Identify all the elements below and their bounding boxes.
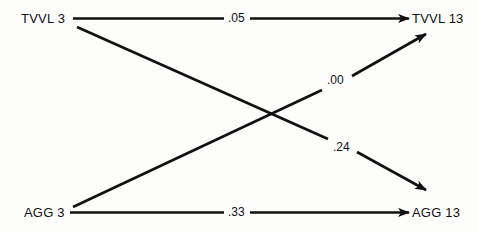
- path-diagram-canvas: TVVL 3 TVVL 13 AGG 3 AGG 13 .05 .00 .24 …: [0, 0, 477, 233]
- node-label-agg13: AGG 13: [412, 206, 460, 219]
- coefficient-label-tvvl3-tvvl13: .05: [226, 12, 247, 24]
- node-label-agg3: AGG 3: [24, 206, 65, 219]
- edge-agg3-to-tvvl13: [73, 34, 426, 207]
- coefficient-label-tvvl3-agg13: .24: [331, 141, 352, 153]
- node-label-tvvl3: TVVL 3: [21, 12, 65, 25]
- coefficient-label-agg3-tvvl13: .00: [325, 74, 346, 86]
- path-diagram-edges: [0, 0, 477, 233]
- node-label-tvvl13: TVVL 13: [412, 12, 464, 25]
- edge-tvvl3-to-agg13: [77, 27, 426, 190]
- coefficient-label-agg3-agg13: .33: [226, 206, 247, 218]
